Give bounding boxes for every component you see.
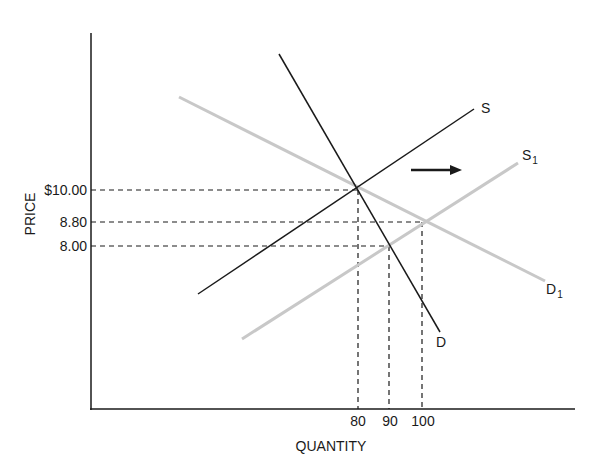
x-tick-80: 80 [350, 413, 366, 429]
y-tick-8-80: 8.80 [60, 214, 87, 230]
shift-arrow-icon [411, 165, 462, 175]
x-tick-100: 100 [411, 413, 435, 429]
label-d: D [436, 334, 446, 350]
y-axis-title: PRICE [22, 193, 38, 236]
curve-d1 [179, 97, 545, 281]
curve-s [198, 109, 474, 294]
label-d1: D1 [546, 281, 563, 300]
curve-d [279, 54, 440, 332]
y-tick-10: $10.00 [44, 182, 87, 198]
x-tick-90: 90 [382, 413, 398, 429]
label-s1: S1 [522, 147, 538, 166]
label-s: S [481, 100, 490, 116]
guide-lines [91, 190, 422, 409]
y-tick-8-00: 8.00 [60, 238, 87, 254]
x-axis-title: QUANTITY [296, 438, 367, 454]
supply-demand-chart: S D S1 D1 $10.00 8.80 8.00 80 90 100 QUA… [0, 0, 591, 468]
